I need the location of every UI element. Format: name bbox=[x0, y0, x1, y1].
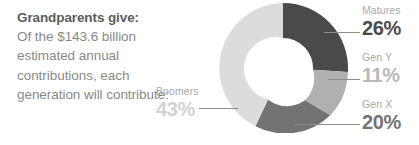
callout-genx-percent: 20% bbox=[362, 111, 401, 133]
callout-genx-category: Gen X bbox=[362, 98, 401, 111]
callout-boomers: Boomers 43% bbox=[156, 85, 199, 120]
donut-chart bbox=[218, 3, 348, 133]
leader-line-genx bbox=[294, 124, 360, 125]
donut-chart-svg bbox=[218, 3, 348, 133]
leader-line-matures bbox=[324, 32, 360, 33]
pie-slice-matures bbox=[283, 3, 348, 72]
callout-geny: Gen Y 11% bbox=[362, 51, 400, 86]
intro-body-text: Of the $143.6 billion estimated annual c… bbox=[17, 27, 177, 104]
callout-geny-category: Gen Y bbox=[362, 51, 400, 64]
intro-text-block: Grandparents give: Of the $143.6 billion… bbox=[17, 8, 177, 104]
callout-genx: Gen X 20% bbox=[362, 98, 401, 133]
callout-matures: Matures 26% bbox=[362, 4, 401, 39]
callout-boomers-category: Boomers bbox=[156, 85, 199, 98]
infographic-root: Grandparents give: Of the $143.6 billion… bbox=[0, 0, 419, 145]
callout-geny-percent: 11% bbox=[362, 64, 400, 86]
page-title: Grandparents give: bbox=[17, 8, 177, 27]
leader-line-boomers bbox=[199, 108, 238, 109]
leader-line-geny bbox=[328, 79, 360, 80]
callout-boomers-percent: 43% bbox=[156, 98, 199, 120]
callout-matures-category: Matures bbox=[362, 4, 401, 17]
callout-matures-percent: 26% bbox=[362, 17, 401, 39]
